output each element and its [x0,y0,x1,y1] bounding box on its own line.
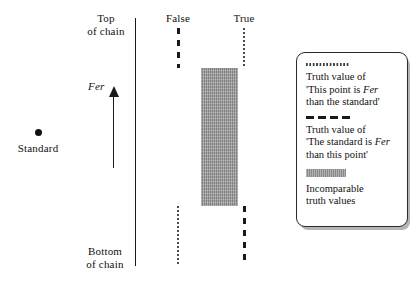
legend-entry-standard-fer: Truth value of 'The standard is Fer than… [306,116,407,162]
legend-1-line2-italic: Fer [363,84,378,95]
standard-point-label: Standard [6,142,70,155]
dashed-line-swatch-icon [306,116,352,119]
true-column-dotted-segment-top [243,28,245,68]
chain-axis-line [135,18,136,266]
incomparable-truth-values-band [201,68,238,206]
top-of-chain-label: Top of chain [83,12,129,38]
fer-arrow-shaft [113,95,114,168]
bottom-of-chain-label: Bottom of chain [81,245,129,271]
true-column-label: True [224,12,264,25]
legend-entry-standard-fer-text: Truth value of 'The standard is Fer than… [306,124,407,162]
top-of-chain-line1: Top [97,12,115,24]
legend-3-line2: truth values [306,195,355,206]
legend-2-line3: than this point' [306,149,368,160]
bottom-of-chain-line2: of chain [86,258,123,270]
false-column-label: False [158,12,198,25]
legend-2-line2-italic: Fer [375,136,390,147]
legend-entry-incomparable-text: Incomparable truth values [306,183,407,208]
figure-canvas: Top of chain Bottom of chain Fer Standar… [0,0,420,283]
legend-1-line2-prefix: 'This point is [306,84,363,95]
legend-entry-incomparable: Incomparable truth values [306,169,407,208]
false-column-dotted-segment-bottom [177,206,179,266]
legend-box: Truth value of 'This point is Fer than t… [296,52,408,227]
fer-arrow-head-icon [109,86,119,97]
legend-entry-this-point-fer-text: Truth value of 'This point is Fer than t… [306,71,407,109]
gray-band-swatch-icon [306,169,346,177]
dotted-line-swatch-icon [306,63,350,66]
legend-3-line1: Incomparable [306,183,364,194]
legend-2-line2-prefix: 'The standard is [306,136,375,147]
true-column-dashed-segment-bottom [243,206,246,266]
legend-entry-this-point-fer: Truth value of 'This point is Fer than t… [306,63,407,109]
false-column-dashed-segment-top [177,28,180,68]
legend-2-line1: Truth value of [306,124,366,135]
standard-point-marker [35,129,42,136]
fer-direction-label: Fer [88,80,104,93]
legend-1-line1: Truth value of [306,71,366,82]
legend-1-line3: than the standard' [306,96,380,107]
top-of-chain-line2: of chain [87,25,124,37]
bottom-of-chain-line1: Bottom [88,245,122,257]
